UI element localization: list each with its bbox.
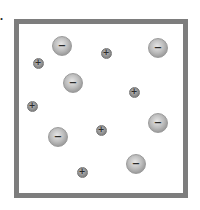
cation-particle: + [33, 58, 44, 69]
cation-particle: + [129, 87, 140, 98]
minus-icon: − [69, 78, 77, 88]
minus-icon: − [154, 118, 162, 128]
cation-particle: + [101, 48, 112, 59]
plus-icon: + [103, 49, 110, 57]
anion-particle: − [48, 127, 68, 147]
plus-icon: + [29, 102, 36, 110]
anion-particle: − [148, 113, 168, 133]
minus-icon: − [154, 43, 162, 53]
anion-particle: − [148, 38, 168, 58]
anion-particle: − [52, 36, 72, 56]
minus-icon: − [54, 132, 62, 142]
plus-icon: + [131, 88, 138, 96]
minus-icon: − [58, 41, 66, 51]
plus-icon: + [35, 59, 42, 67]
anion-particle: − [126, 154, 146, 174]
plus-icon: + [79, 168, 86, 176]
panel-label: a. [0, 10, 3, 22]
cation-particle: + [96, 125, 107, 136]
cation-particle: + [77, 167, 88, 178]
minus-icon: − [132, 159, 140, 169]
plus-icon: + [98, 126, 105, 134]
cation-particle: + [27, 101, 38, 112]
anion-particle: − [63, 73, 83, 93]
